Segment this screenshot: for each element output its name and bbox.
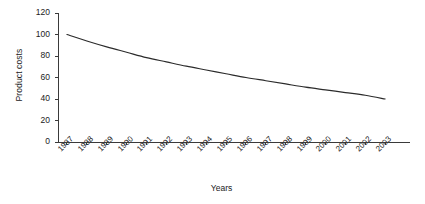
chart-screenshot: Product costs Years 020406080100120 1987… [0,0,425,204]
data-series-line [67,35,385,100]
plot-area [0,0,425,204]
